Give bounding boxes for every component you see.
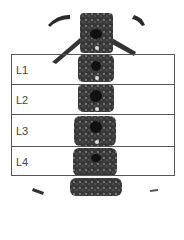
roi-label-l2: L2: [16, 94, 28, 106]
roi-label-l3: L3: [16, 125, 28, 137]
roi-label-l4: L4: [16, 156, 28, 168]
roi-label-l1: L1: [16, 64, 28, 76]
roi-row-l3: L3: [12, 115, 174, 147]
vertebra-roi-grid: L1 L2 L3 L4: [11, 54, 175, 176]
roi-row-l4: L4: [12, 147, 174, 177]
roi-row-l2: L2: [12, 85, 174, 115]
roi-row-l1: L1: [12, 55, 174, 85]
